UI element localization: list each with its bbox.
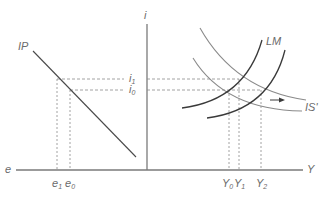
e1-label: e1: [52, 177, 62, 190]
lm-label: LM: [266, 35, 282, 47]
axis-label-i: i: [144, 9, 147, 21]
ip-label: IP: [18, 40, 29, 52]
e0-label: e0: [65, 177, 75, 190]
lm-curve-right: [207, 50, 285, 118]
is-curve-upper: [200, 28, 306, 100]
is-lm-ip-diagram: i Y e IP LM IS' i1 i0 e1 e0 Y0 Y1 Y2: [0, 0, 333, 202]
y1-label: Y1: [234, 177, 245, 190]
diagram-svg: i Y e IP LM IS' i1 i0 e1 e0 Y0 Y1 Y2: [0, 0, 333, 202]
ip-curve: [33, 51, 136, 157]
axis-label-y: Y: [307, 163, 315, 175]
lm-curve-left: [182, 40, 262, 108]
is-label: IS': [305, 101, 318, 113]
y2-label: Y2: [256, 177, 267, 190]
y0-label: Y0: [222, 177, 233, 190]
is-curve-lower: [193, 58, 302, 111]
axis-label-e: e: [5, 163, 11, 175]
shift-arrow-head: [279, 98, 285, 103]
